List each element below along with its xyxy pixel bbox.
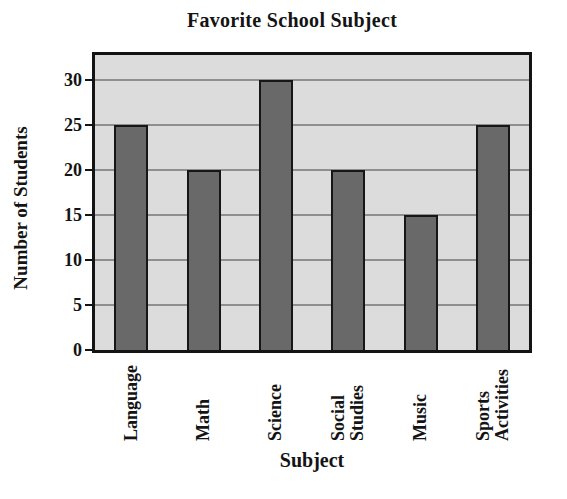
x-category-label-line: Math (194, 399, 213, 441)
plot-area (92, 52, 532, 353)
y-tick-label-20: 20 (42, 159, 82, 181)
gridline-20 (95, 169, 529, 171)
x-category-label-line: Music (411, 394, 430, 441)
x-category-label-science: Science (266, 384, 285, 441)
x-category-label-line: Studies (348, 385, 367, 441)
bar-language (114, 125, 148, 350)
x-category-label-line: Sports (474, 369, 493, 441)
x-category-label-line: Social (329, 385, 348, 441)
x-category-label-line: Activities (493, 369, 512, 441)
x-category-label-line: Language (122, 365, 141, 441)
bar-sports-activities (476, 125, 510, 350)
y-tick-mark-25 (85, 124, 92, 126)
y-tick-mark-30 (85, 79, 92, 81)
gridline-30 (95, 79, 529, 81)
gridline-25 (95, 124, 529, 126)
y-tick-label-25: 25 (42, 114, 82, 136)
x-axis-title: Subject (92, 449, 532, 472)
gridline-10 (95, 259, 529, 261)
y-axis-title: Number of Students (10, 126, 32, 289)
bar-music (404, 215, 438, 350)
x-category-label-language: Language (122, 365, 141, 441)
y-tick-label-15: 15 (42, 204, 82, 226)
x-category-label-sports-activities: SportsActivities (474, 369, 512, 441)
y-tick-label-5: 5 (42, 294, 82, 316)
bar-science (259, 80, 293, 350)
x-category-label-line: Science (266, 384, 285, 441)
y-tick-label-10: 10 (42, 249, 82, 271)
y-tick-label-0: 0 (42, 339, 82, 361)
y-tick-mark-5 (85, 304, 92, 306)
y-tick-label-30: 30 (42, 69, 82, 91)
gridline-15 (95, 214, 529, 216)
bar-social-studies (331, 170, 365, 350)
y-tick-mark-0 (85, 349, 92, 351)
y-tick-mark-15 (85, 214, 92, 216)
x-category-label-math: Math (194, 399, 213, 441)
x-category-label-music: Music (411, 394, 430, 441)
chart-title: Favorite School Subject (92, 9, 492, 32)
y-tick-mark-20 (85, 169, 92, 171)
bar-math (187, 170, 221, 350)
bar-chart-figure: Favorite School Subject Number of Studen… (0, 0, 567, 499)
gridline-5 (95, 304, 529, 306)
x-category-label-social-studies: SocialStudies (329, 385, 367, 441)
y-tick-mark-10 (85, 259, 92, 261)
